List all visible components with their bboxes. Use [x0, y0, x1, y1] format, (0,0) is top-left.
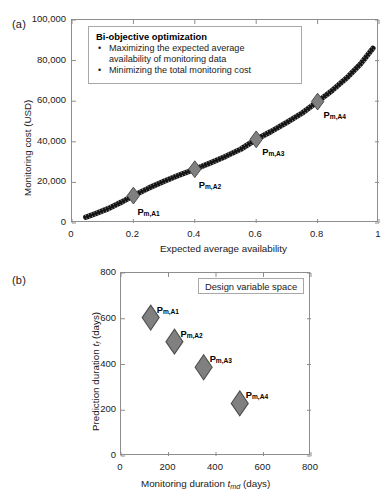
figure-container: (a) 020,00040,00060,00080,000100,000 00.…: [0, 0, 391, 497]
annotation-item-1: •Maximizing the expected averageavailabi…: [96, 43, 295, 65]
marker-label-subscript: m,A1: [163, 308, 179, 315]
panel-a-x-tick-0.6: 0.6: [235, 228, 275, 239]
panel-a-y-tick-60000: 60,000: [0, 94, 66, 105]
panel-b-x-tick-400: 400: [195, 461, 235, 472]
panel-b-marker-label-3: Pm,A3: [210, 354, 232, 364]
panel-b-y-tick-800: 800: [74, 266, 116, 277]
annotation-item-line: Maximizing the expected average: [109, 43, 244, 53]
marker-label-subscript: m,A4: [330, 113, 346, 120]
annotation-item-line: availability of monitoring data: [109, 54, 226, 64]
panel-a-x-tick-0: 0: [51, 228, 91, 239]
panel-b-y-axis-title-post: (days): [90, 312, 101, 342]
panel-a-y-tick-20000: 20,000: [0, 175, 66, 186]
marker-label-subscript: m,A4: [252, 394, 268, 401]
panel-b-x-axis-subscript: md: [230, 482, 240, 491]
panel-b-marker-label-4: Pm,A4: [246, 390, 268, 400]
marker-label-subscript: m,A2: [187, 332, 203, 339]
marker-label-subscript: m,A3: [268, 151, 284, 158]
panel-b-annotation-title: Design variable space: [205, 281, 297, 292]
panel-a-y-axis-title: Monitoring cost (USD): [22, 100, 33, 196]
panel-a-x-axis-title: Expected average availability: [160, 243, 287, 254]
marker-label-subscript: m,A1: [144, 210, 160, 217]
panel-b-x-axis-title-post: (days): [240, 478, 270, 489]
panel-a-y-tick-100000: 100,000: [0, 13, 66, 24]
panel-b-y-tick-0: 0: [74, 449, 116, 460]
bullet-icon: •: [98, 43, 101, 54]
panel-b-marker-label-2: Pm,A2: [180, 329, 202, 339]
panel-b-annotation-box: Design variable space: [198, 278, 304, 294]
panel-b-x-tick-200: 200: [148, 461, 188, 472]
annotation-title: Bi-objective optimization: [96, 31, 295, 42]
panel-b-y-axis-variable: t: [90, 344, 101, 347]
panel-a-marker-label-4: Pm,A4: [324, 110, 346, 120]
panel-b-marker-label-1: Pm,A1: [157, 305, 179, 315]
panel-b-y-axis-title: Prediction duration tf (days): [90, 312, 103, 431]
panel-a-y-tick-80000: 80,000: [0, 54, 66, 65]
panel-a-x-tick-1: 1: [358, 228, 391, 239]
panel-a-marker-label-1: Pm,A1: [137, 207, 159, 217]
annotation-item-line: Minimizing the total monitoring cost: [109, 65, 251, 75]
panel-a-marker-label-2: Pm,A2: [199, 180, 221, 190]
panel-b-x-tick-600: 600: [243, 461, 283, 472]
marker-label-subscript: m,A3: [216, 358, 232, 365]
bullet-icon: •: [98, 65, 101, 76]
panel-a-x-tick-0.4: 0.4: [174, 228, 214, 239]
panel-a-annotation-box: Bi-objective optimization •Maximizing th…: [88, 26, 302, 84]
panel-label-b: (b): [12, 274, 26, 286]
annotation-item-2: •Minimizing the total monitoring cost: [96, 65, 295, 76]
panel-b-x-tick-0: 0: [100, 461, 140, 472]
marker-label-subscript: m,A2: [205, 184, 221, 191]
panel-a-x-tick-0.2: 0.2: [112, 228, 152, 239]
panel-a-y-tick-40000: 40,000: [0, 135, 66, 146]
panel-a-marker-label-3: Pm,A3: [262, 147, 284, 157]
panel-b-x-axis-title-pre: Monitoring duration: [141, 478, 228, 489]
panel-b-x-tick-800: 800: [290, 461, 330, 472]
annotation-bullet-list: •Maximizing the expected averageavailabi…: [96, 43, 295, 75]
panel-b-y-axis-subscript: f: [94, 342, 103, 344]
panel-b-x-axis-title: Monitoring duration tmd (days): [141, 478, 270, 491]
panel-b-y-axis-title-pre: Prediction duration: [90, 347, 101, 431]
panel-a-x-tick-0.8: 0.8: [297, 228, 337, 239]
panel-a-y-tick-0: 0: [0, 216, 66, 227]
